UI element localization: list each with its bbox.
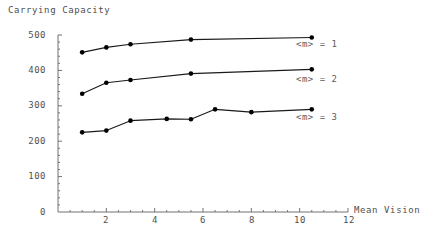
data-point (104, 45, 109, 50)
data-point (189, 37, 194, 42)
data-point (164, 117, 169, 122)
chart-axes (58, 35, 348, 212)
chart-series (80, 35, 314, 134)
series-line-3 (82, 109, 312, 132)
x-axis-label: Mean Vision (354, 205, 420, 215)
data-point (309, 67, 314, 72)
series-annotation-m3: <m> = 3 (296, 112, 337, 122)
x-tick-label-10: 10 (290, 215, 310, 225)
data-point (80, 91, 85, 96)
y-tick-label-300: 300 (16, 100, 46, 110)
series-line-2 (82, 69, 312, 93)
data-point (128, 78, 133, 83)
data-point (104, 128, 109, 133)
data-point (309, 107, 314, 112)
y-axis-label: Carrying Capacity (8, 5, 110, 15)
y-tick-label-200: 200 (16, 136, 46, 146)
series-line-1 (82, 37, 312, 52)
x-tick-label-2: 2 (96, 215, 116, 225)
x-tick-label-6: 6 (193, 215, 213, 225)
series-annotation-m2: <m> = 2 (296, 74, 337, 84)
data-point (104, 80, 109, 85)
data-point (128, 42, 133, 47)
data-point (189, 117, 194, 122)
y-tick-label-100: 100 (16, 171, 46, 181)
x-tick-label-8: 8 (242, 215, 262, 225)
data-point (249, 110, 254, 115)
data-point (128, 118, 133, 123)
data-point (80, 50, 85, 55)
data-point (80, 130, 85, 135)
y-tick-label-500: 500 (16, 30, 46, 40)
x-tick-label-4: 4 (145, 215, 165, 225)
chart-plot-area: Carrying Capacity Mean Vision 500 400 30… (0, 0, 443, 247)
series-annotation-m1: <m> = 1 (296, 39, 337, 49)
y-tick-label-0: 0 (16, 207, 46, 217)
y-tick-label-400: 400 (16, 65, 46, 75)
data-point (189, 71, 194, 76)
x-tick-label-12: 12 (339, 215, 359, 225)
data-point (213, 107, 218, 112)
